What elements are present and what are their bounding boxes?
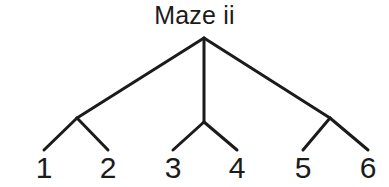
tree-diagram-figure: Maze ii 123456 [0, 0, 389, 187]
leaf-label-4: 4 [217, 153, 257, 183]
leaf-label-2: 2 [88, 153, 128, 183]
leaf-label-6: 6 [348, 153, 388, 183]
tree-edge-right-to-leaf-6 [330, 118, 368, 150]
tree-edge-middle-to-leaf-3 [173, 122, 204, 150]
tree-edge-middle-to-leaf-4 [204, 122, 237, 150]
leaf-label-3: 3 [153, 153, 193, 183]
leaf-label-5: 5 [283, 153, 323, 183]
tree-edge-right-to-leaf-5 [303, 118, 330, 150]
tree-edge-root-to-left [77, 38, 204, 118]
tree-edges [44, 38, 368, 150]
leaf-label-1: 1 [24, 153, 64, 183]
tree-edge-left-to-leaf-2 [77, 118, 108, 150]
tree-edge-left-to-leaf-1 [44, 118, 77, 150]
tree-edge-root-to-right [204, 38, 330, 118]
